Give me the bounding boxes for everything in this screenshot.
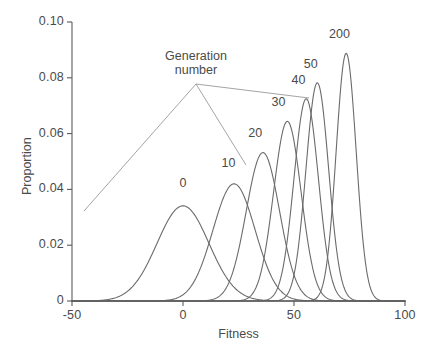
- curve-label-30: 30: [266, 95, 290, 109]
- y-tick-label-2: 0.04: [39, 181, 64, 195]
- curve-generation-20: [72, 153, 405, 301]
- curve-label-40: 40: [286, 73, 310, 87]
- curve-generation-0: [72, 206, 405, 301]
- curve-label-50: 50: [299, 57, 323, 71]
- y-tick-label-4: 0.08: [39, 70, 64, 84]
- leader-line-to-10: [196, 84, 246, 165]
- y-tick-label-1: 0.02: [39, 237, 64, 251]
- y-axis-title: Proportion: [20, 137, 34, 195]
- x-tick-label-2: 50: [264, 308, 324, 322]
- annotation-line-1: Generation: [165, 49, 227, 63]
- curve-label-0: 0: [171, 176, 195, 190]
- y-tick-label-5: 0.10: [39, 14, 64, 28]
- x-tick-label-3: 100: [375, 308, 435, 322]
- x-axis-title: Fitness: [209, 327, 269, 341]
- curve-label-20: 20: [243, 126, 267, 140]
- curve-group: [72, 53, 405, 301]
- chart-figure: Generation number Fitness Proportion -50…: [0, 0, 440, 344]
- generation-number-annotation: Generation number: [150, 49, 242, 77]
- x-tick-label-0: -50: [42, 308, 102, 322]
- y-tick-label-0: 0: [57, 293, 64, 307]
- curve-generation-10: [72, 184, 405, 301]
- annotation-line-2: number: [175, 63, 217, 77]
- y-tick-label-3: 0.06: [39, 126, 64, 140]
- curve-generation-200: [72, 53, 405, 301]
- x-tick-label-1: 0: [153, 308, 213, 322]
- curve-label-200: 200: [328, 27, 352, 41]
- curve-generation-30: [72, 121, 405, 301]
- curve-generation-50: [72, 83, 405, 301]
- curve-label-10: 10: [217, 156, 241, 170]
- leader-line-to-0: [84, 84, 196, 211]
